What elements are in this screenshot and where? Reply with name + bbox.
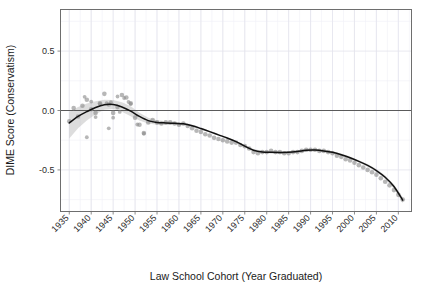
- x-tick-label: 1960: [159, 213, 180, 234]
- x-tick-label: 1975: [225, 213, 246, 234]
- chart-figure: 1935194019451950195519601965197019751980…: [0, 0, 422, 289]
- x-tick-label: 2005: [357, 213, 378, 234]
- x-tick-label: 1980: [247, 213, 268, 234]
- y-tick-label: 0.5: [42, 46, 55, 56]
- x-tick-label: 1955: [137, 213, 158, 234]
- x-tick-label: 1990: [291, 213, 312, 234]
- x-tick-label: 1945: [93, 213, 114, 234]
- y-tick-label: 0.0: [42, 106, 55, 116]
- x-tick-label: 1985: [269, 213, 290, 234]
- x-tick-label: 1965: [181, 213, 202, 234]
- x-tick-label: 1970: [203, 213, 224, 234]
- y-tick-label: -0.5: [39, 165, 55, 175]
- x-tick-label: 1950: [115, 213, 136, 234]
- x-axis-title: Law School Cohort (Year Graduated): [150, 270, 322, 282]
- y-axis-tick-labels: 0.50.0-0.5: [39, 46, 55, 175]
- x-tick-label: 1940: [71, 213, 92, 234]
- x-tick-label: 2010: [379, 213, 400, 234]
- x-tick-label: 2000: [335, 213, 356, 234]
- scatter-plot-svg: 1935194019451950195519601965197019751980…: [0, 0, 422, 289]
- x-axis-tick-labels: 1935194019451950195519601965197019751980…: [49, 213, 399, 234]
- x-tick-label: 1935: [49, 213, 70, 234]
- y-axis-title: DIME Score (Conservatism): [4, 45, 16, 176]
- x-tick-label: 1995: [313, 213, 334, 234]
